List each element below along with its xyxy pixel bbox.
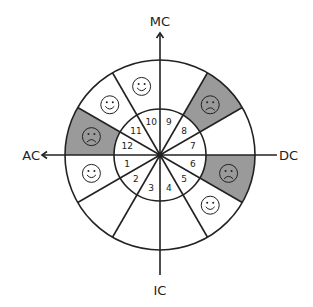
spoke [78, 155, 160, 203]
house-wheel-diagram: MC IC AC DC 123456789101112 [0, 0, 313, 307]
sector-number: 4 [166, 183, 172, 193]
sector-number: 3 [148, 183, 154, 193]
sector-number: 1 [124, 159, 130, 169]
sector-number: 6 [190, 159, 196, 169]
axis-label-ac: AC [22, 148, 40, 163]
sector-number: 10 [145, 117, 157, 127]
axis-label-ic: IC [154, 283, 167, 298]
smiley-icon [101, 96, 119, 114]
sector-number: 2 [133, 174, 139, 184]
axis-label-dc: DC [279, 148, 298, 163]
sector-number: 9 [166, 117, 172, 127]
spoke [113, 73, 161, 155]
sector-number: 12 [121, 141, 132, 151]
sector-number: 7 [190, 141, 196, 151]
smiley-icon [201, 196, 219, 214]
axis-label-mc: MC [150, 14, 170, 29]
sector-number: 11 [130, 126, 141, 136]
center-dot [157, 152, 163, 158]
spoke [160, 155, 208, 237]
smiley-icon [82, 164, 100, 182]
smiley-icon [133, 77, 151, 95]
sector-number: 5 [181, 174, 187, 184]
spoke [113, 155, 161, 237]
sector-number: 8 [181, 126, 187, 136]
